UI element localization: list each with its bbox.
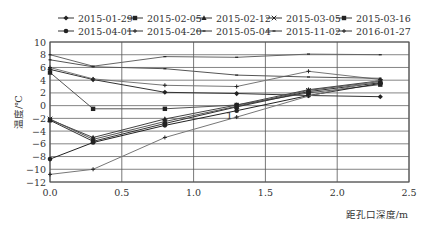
annotations: 1	[226, 110, 232, 121]
legend-item: 2015-03-16	[336, 13, 411, 24]
x-tick-label: 0.5	[114, 187, 129, 198]
legend-item: 2015-04-20	[127, 26, 202, 37]
x-tick-label: 1.5	[258, 187, 273, 198]
data-point	[163, 107, 167, 111]
legend-label: 2015-02-05	[147, 13, 202, 24]
legend-marker	[133, 16, 137, 20]
x-axis-ticks: 0.00.51.01.52.02.5	[42, 187, 416, 198]
legend-label: 2015-02-12	[216, 13, 271, 24]
legend-item: 2015-02-12	[196, 13, 271, 24]
y-tick-label: −2	[32, 113, 46, 124]
data-point	[234, 108, 239, 113]
legend-label: 2015-05-04	[216, 26, 271, 37]
legend: 2015-01-292015-02-052015-02-122015-03-05…	[58, 13, 411, 37]
y-tick-label: −6	[32, 138, 46, 149]
x-tick-label: 2.5	[401, 187, 416, 198]
legend-marker	[342, 16, 346, 20]
y-tick-label: −8	[32, 151, 46, 162]
legend-label: 2015-01-29	[78, 13, 133, 24]
legend-item: 2016-01-27	[336, 26, 411, 37]
y-tick-label: −12	[26, 177, 46, 188]
data-point	[163, 123, 168, 128]
y-tick-label: 10	[34, 37, 46, 48]
data-point	[48, 70, 52, 74]
y-tick-label: 2	[40, 87, 46, 98]
legend-item: 2015-05-04	[196, 26, 271, 37]
y-tick-label: −4	[32, 126, 46, 137]
data-point	[48, 118, 52, 122]
legend-label: 2015-03-16	[356, 13, 411, 24]
x-tick-label: 1.0	[186, 187, 201, 198]
legend-marker	[63, 15, 68, 20]
y-tick-label: 4	[40, 75, 46, 86]
legend-label: 2015-04-20	[147, 26, 202, 37]
legend-label: 2015-11-02	[286, 26, 341, 37]
legend-item: 2015-02-05	[127, 13, 202, 24]
x-tick-label: 0.0	[42, 187, 57, 198]
legend-marker	[342, 29, 346, 33]
data-point	[48, 157, 53, 162]
y-tick-label: 6	[40, 62, 46, 73]
legend-label: 2015-04-01	[78, 26, 133, 37]
legend-item: 2015-11-02	[266, 26, 341, 37]
y-tick-label: 8	[40, 49, 46, 60]
x-axis-label: 距孔口深度/m	[346, 209, 408, 220]
data-point	[91, 107, 95, 111]
legend-marker	[133, 29, 137, 33]
legend-marker	[64, 29, 69, 34]
legend-item: 2015-01-29	[58, 13, 133, 24]
legend-item: 2015-03-05	[266, 13, 341, 24]
data-point	[91, 140, 96, 145]
chart: 2015-01-292015-02-052015-02-122015-03-05…	[0, 0, 439, 235]
x-tick-label: 2.0	[330, 187, 345, 198]
y-tick-label: 0	[40, 100, 46, 111]
y-axis-ticks: 1086420−2−4−6−8−10−12	[26, 37, 46, 188]
y-axis-label: 温度/℃	[13, 95, 24, 129]
y-tick-label: −10	[26, 164, 46, 175]
legend-item: 2015-04-01	[58, 26, 133, 37]
annotation-label: 1	[226, 110, 232, 121]
legend-label: 2015-03-05	[286, 13, 341, 24]
legend-label: 2016-01-27	[356, 26, 411, 37]
